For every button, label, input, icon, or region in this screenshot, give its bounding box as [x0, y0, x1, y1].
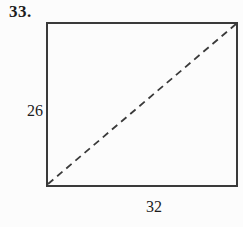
geometry-figure: 33. 26 32 — [0, 0, 243, 227]
rectangle-shape — [46, 22, 238, 187]
problem-number: 33. — [9, 2, 32, 22]
height-label: 26 — [21, 103, 43, 119]
width-label: 32 — [132, 199, 176, 215]
